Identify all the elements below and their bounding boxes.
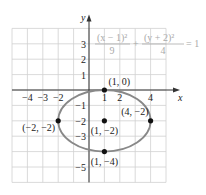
x-tick-label: 1 [102, 92, 107, 103]
point-label: (−2, −2) [22, 122, 55, 134]
data-point [102, 118, 107, 123]
y-axis-label: y [80, 12, 86, 23]
y-tick-label: 2 [81, 54, 86, 65]
equation-rhs: = 1 [186, 38, 199, 49]
equation-term1-numerator: (x − 1)² [97, 32, 127, 44]
data-point [56, 118, 61, 123]
equation-term2-numerator: (y + 2)² [144, 32, 174, 44]
y-tick-label: −3 [75, 131, 86, 142]
x-tick-label: 4 [148, 92, 153, 103]
data-point [102, 87, 107, 92]
x-tick-label: −2 [53, 92, 64, 103]
point-label: (1, 0) [108, 76, 130, 88]
equation-plus: + [133, 38, 139, 49]
y-tick-label: −2 [75, 116, 86, 127]
x-tick-label: −3 [37, 92, 48, 103]
y-tick-label: −5 [75, 162, 86, 173]
point-label: (1, −4) [91, 156, 118, 168]
y-tick-label: 3 [81, 39, 86, 50]
x-tick-label: 2 [117, 92, 122, 103]
point-label: (4, −2) [121, 106, 148, 118]
y-tick-label: 1 [81, 70, 86, 81]
data-point [102, 149, 107, 154]
x-axis-label: x [177, 92, 183, 103]
y-axis-arrow-icon [87, 14, 92, 21]
data-point [148, 118, 153, 123]
equation-term2-denominator: 4 [161, 45, 166, 56]
equation-term1-denominator: 9 [110, 45, 115, 56]
y-tick-label: −1 [75, 100, 86, 111]
equation-label: (x − 1)²9+(y + 2)²4= 1 [95, 32, 199, 56]
ellipse-graph: xy −4−3−2124321−1−2−3−5 (1, 0)(−2, −2)(1… [0, 0, 206, 195]
point-label: (1, −2) [91, 125, 118, 137]
x-tick-label: −4 [22, 92, 33, 103]
